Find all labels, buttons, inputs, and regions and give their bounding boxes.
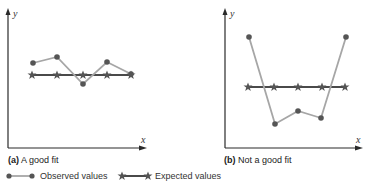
legend-observed: Observed values (6, 171, 108, 181)
legend: Observed values Expected values (6, 171, 221, 181)
y-axis-label: y (12, 8, 18, 19)
y-axis-label: y (229, 8, 235, 19)
dot-marker-icon (80, 81, 86, 87)
dot-marker-icon (6, 173, 11, 178)
expected-series (244, 83, 350, 92)
observed-series (30, 54, 134, 87)
dot-marker-icon (318, 115, 324, 121)
x-axis-label: x (140, 134, 146, 145)
caption-text: A good fit (19, 155, 59, 165)
caption-text: Not a good fit (236, 155, 293, 165)
caption-tag: (a) (8, 155, 19, 165)
legend-expected-label: Expected values (155, 171, 222, 181)
panel-b: y x (b) Not a good fit (223, 8, 364, 165)
caption-tag: (b) (224, 155, 236, 165)
x-axis-label: x (355, 134, 361, 145)
dot-marker-icon (343, 34, 349, 40)
x-axis-arrow-icon (355, 146, 363, 151)
y-axis-arrow-icon (223, 8, 228, 15)
figure: y x (a) A good fit y x (0, 0, 366, 181)
x-axis-arrow-icon (139, 146, 147, 151)
dot-marker-icon (246, 34, 252, 40)
dot-marker-icon (272, 121, 278, 127)
legend-expected: Expected values (118, 171, 222, 181)
y-axis-arrow-icon (6, 8, 11, 15)
dot-marker-icon (295, 108, 301, 114)
dot-marker-icon (104, 59, 110, 65)
observed-series (246, 34, 349, 127)
dot-marker-icon (29, 173, 34, 178)
dot-marker-icon (54, 54, 60, 60)
dot-marker-icon (128, 71, 134, 77)
legend-observed-label: Observed values (40, 171, 108, 181)
dot-marker-icon (30, 60, 36, 66)
expected-series (28, 71, 136, 80)
caption-a: (a) A good fit (8, 155, 59, 165)
panel-a: y x (a) A good fit (6, 8, 148, 165)
caption-b: (b) Not a good fit (224, 155, 292, 165)
